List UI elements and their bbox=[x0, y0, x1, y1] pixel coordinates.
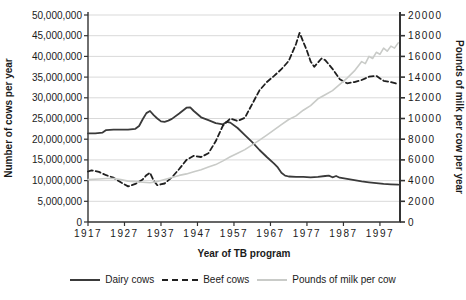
left-axis-tick-label: 40,000,000 bbox=[32, 51, 82, 62]
left-axis-tick-label: 10,000,000 bbox=[32, 175, 82, 186]
left-axis-title: Number of cows per year bbox=[3, 58, 14, 178]
legend-label-milk-per-cow: Pounds of milk per cow bbox=[292, 274, 395, 285]
tb-program-cattle-chart: 50,000,0002000045,000,0001800040,000,000… bbox=[0, 0, 466, 300]
right-axis-tick-label: 4000 bbox=[408, 175, 435, 186]
right-axis-tick-label: 14000 bbox=[408, 72, 442, 83]
right-axis-tick-label: 0 bbox=[408, 217, 415, 228]
beef-cows-line bbox=[88, 33, 398, 187]
gridlines bbox=[88, 15, 400, 201]
right-axis-tick-label: 20000 bbox=[408, 10, 442, 21]
x-axis-tick-label: 1927 bbox=[110, 228, 138, 239]
dairy-cows-line-swatch bbox=[70, 279, 100, 281]
axis-tick-labels: 50,000,0002000045,000,0001800040,000,000… bbox=[32, 10, 442, 240]
left-axis-tick-label: 20,000,000 bbox=[32, 134, 82, 145]
left-axis-tick-label: 30,000,000 bbox=[32, 92, 82, 103]
x-axis-title: Year of TB program bbox=[198, 248, 291, 259]
legend-item-milk-per-cow: Pounds of milk per cow bbox=[257, 274, 395, 285]
x-axis-tick-label: 1947 bbox=[183, 228, 211, 239]
axes bbox=[88, 12, 401, 222]
x-axis-tick-label: 1957 bbox=[220, 228, 248, 239]
left-axis-tick-label: 0 bbox=[76, 217, 82, 228]
chart-plot-area: 50,000,0002000045,000,0001800040,000,000… bbox=[0, 0, 466, 300]
x-axis-tick-label: 1997 bbox=[366, 228, 394, 239]
x-axis-tick-label: 1977 bbox=[293, 228, 321, 239]
left-axis-tick-label: 50,000,000 bbox=[32, 10, 82, 21]
legend-item-beef-cows: Beef cows bbox=[162, 274, 249, 285]
right-axis-tick-label: 2000 bbox=[408, 196, 435, 207]
beef-cows-line-swatch bbox=[162, 279, 198, 281]
legend-item-dairy-cows: Dairy cows bbox=[70, 274, 154, 285]
right-axis-tick-label: 12000 bbox=[408, 92, 442, 103]
x-axis-tick-label: 1937 bbox=[147, 228, 175, 239]
right-axis-tick-label: 6000 bbox=[408, 154, 435, 165]
left-axis-tick-label: 25,000,000 bbox=[32, 113, 82, 124]
x-axis-tick-label: 1917 bbox=[74, 228, 102, 239]
left-axis-tick-label: 5,000,000 bbox=[38, 196, 83, 207]
pounds-of-milk-per-cow-line bbox=[88, 43, 398, 183]
left-axis-tick-label: 35,000,000 bbox=[32, 72, 82, 83]
x-axis-tick-label: 1967 bbox=[256, 228, 284, 239]
x-axis-tick-label: 1987 bbox=[329, 228, 357, 239]
right-axis-tick-label: 10000 bbox=[408, 113, 442, 124]
left-axis-tick-label: 15,000,000 bbox=[32, 154, 82, 165]
chart-legend: Dairy cows Beef cows Pounds of milk per … bbox=[0, 274, 466, 285]
left-axis-tick-label: 45,000,000 bbox=[32, 30, 82, 41]
milk-per-cow-line-swatch bbox=[257, 279, 287, 281]
right-axis-title: Pounds of milk per cow per year bbox=[454, 40, 465, 194]
right-axis-tick-label: 16000 bbox=[408, 51, 442, 62]
legend-label-dairy-cows: Dairy cows bbox=[105, 274, 154, 285]
legend-label-beef-cows: Beef cows bbox=[203, 274, 249, 285]
series-lines bbox=[88, 33, 398, 187]
right-axis-tick-label: 8000 bbox=[408, 134, 435, 145]
right-axis-tick-label: 18000 bbox=[408, 30, 442, 41]
axis-ticks bbox=[84, 15, 405, 226]
